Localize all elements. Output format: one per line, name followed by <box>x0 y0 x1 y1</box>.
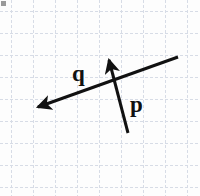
vector-diagram-canvas: q p <box>0 0 200 196</box>
vector-diagram-figure: q p <box>0 0 200 196</box>
vector-q-label: q <box>72 61 85 86</box>
vector-p-label: p <box>130 92 143 117</box>
corner-square-marker <box>1 1 6 6</box>
